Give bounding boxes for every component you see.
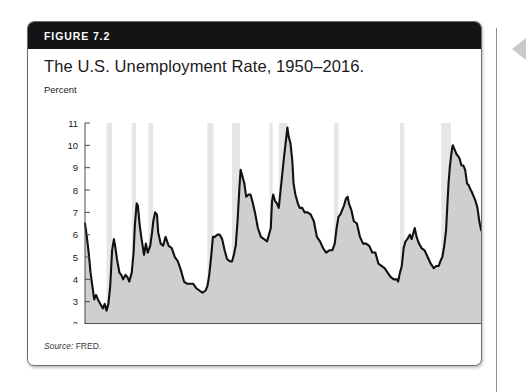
y-tick-label: 5: [73, 252, 78, 263]
page-root: FIGURE 7.2 The U.S. Unemployment Rate, 1…: [0, 0, 528, 392]
y-tick-label: 6: [73, 229, 78, 240]
source-note: Source: FRED.: [44, 341, 101, 351]
y-tick-label: 9: [73, 162, 78, 173]
y-tick-label: 2: [73, 319, 78, 325]
unemployment-rate-chart: 2345678910111950196019701980199020002010…: [28, 84, 482, 324]
figure-badge-label: FIGURE 7.2: [28, 30, 110, 42]
figure-title: The U.S. Unemployment Rate, 1950–2016.: [44, 57, 364, 76]
y-tick-label: 10: [67, 140, 78, 151]
chart-area: Percent 23456789101119501960197019801990…: [28, 84, 482, 324]
source-label: Source:: [44, 341, 73, 351]
y-tick-label: 11: [68, 118, 78, 129]
triangle-left-icon: [512, 38, 526, 60]
figure-card: FIGURE 7.2 The U.S. Unemployment Rate, 1…: [27, 21, 482, 366]
y-tick-label: 3: [73, 296, 78, 307]
y-tick-label: 7: [73, 207, 78, 218]
figure-header-bar: FIGURE 7.2: [28, 22, 481, 49]
y-tick-label: 4: [73, 274, 78, 285]
page-edge-divider: [496, 28, 497, 392]
source-value: FRED.: [73, 341, 101, 351]
y-tick-label: 8: [73, 185, 78, 196]
